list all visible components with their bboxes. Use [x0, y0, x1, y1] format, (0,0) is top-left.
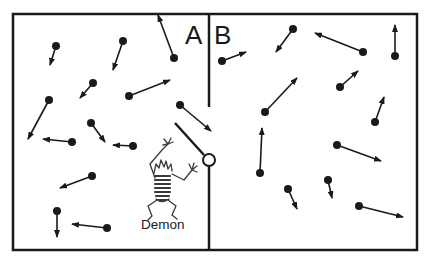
particle-a-8	[43, 138, 76, 146]
demon-label: Demon	[141, 218, 185, 232]
molecule-dot-icon	[324, 176, 332, 184]
particle-b-15	[315, 33, 367, 56]
velocity-arrow-icon	[276, 29, 293, 52]
molecule-dot-icon	[261, 108, 269, 116]
molecule-dot-icon	[391, 52, 399, 60]
chamber-a-label: A	[185, 22, 202, 48]
molecule-dot-icon	[89, 79, 97, 87]
molecule-dot-icon	[289, 25, 297, 33]
molecule-dot-icon	[53, 207, 61, 215]
particle-a-0	[50, 42, 60, 65]
particle-a-4	[125, 80, 170, 100]
particle-b-19	[371, 97, 384, 126]
velocity-arrow-icon	[28, 100, 49, 139]
particle-a-9	[113, 142, 137, 150]
particle-b-23	[324, 176, 332, 198]
particle-a-6	[176, 101, 211, 131]
particle-a-12	[72, 224, 111, 232]
molecule-dot-icon	[87, 119, 95, 127]
molecule-dot-icon	[333, 141, 341, 149]
particle-a-10	[60, 172, 96, 188]
velocity-arrow-icon	[113, 41, 123, 70]
particle-b-16	[391, 25, 399, 60]
particle-a-11	[53, 207, 61, 237]
chamber-b-label: B	[214, 22, 231, 48]
particle-a-3	[80, 79, 97, 98]
molecule-dot-icon	[68, 138, 76, 146]
particle-b-20	[256, 128, 264, 177]
particle-b-22	[284, 185, 297, 209]
particle-b-24	[355, 202, 403, 217]
molecule-dot-icon	[125, 92, 133, 100]
velocity-arrow-icon	[315, 33, 363, 52]
velocity-arrow-icon	[359, 206, 403, 217]
particle-b-14	[276, 25, 297, 52]
molecule-dot-icon	[45, 96, 53, 104]
demon-icon	[148, 138, 197, 220]
molecule-dot-icon	[170, 54, 178, 62]
molecule-dot-icon	[355, 202, 363, 210]
gate-pivot-icon	[203, 154, 215, 166]
molecule-dot-icon	[284, 185, 292, 193]
molecule-dot-icon	[371, 118, 379, 126]
molecule-dot-icon	[119, 37, 127, 45]
velocity-arrow-icon	[129, 80, 170, 96]
molecule-dot-icon	[359, 48, 367, 56]
molecule-dot-icon	[52, 42, 60, 50]
particle-b-17	[336, 71, 358, 91]
particle-a-1	[113, 37, 127, 70]
velocity-arrow-icon	[180, 105, 211, 131]
particle-b-13	[218, 52, 246, 65]
molecule-dot-icon	[256, 169, 264, 177]
molecule-dot-icon	[103, 224, 111, 232]
molecule-dot-icon	[176, 101, 184, 109]
particle-b-21	[333, 141, 381, 161]
velocity-arrow-icon	[158, 15, 174, 58]
molecule-dot-icon	[218, 57, 226, 65]
velocity-arrow-icon	[260, 128, 262, 173]
molecule-dot-icon	[336, 83, 344, 91]
velocity-arrow-icon	[72, 224, 107, 228]
molecule-dot-icon	[129, 142, 137, 150]
particle-a-2	[158, 15, 178, 62]
particle-b-18	[261, 78, 297, 116]
velocity-arrow-icon	[265, 78, 297, 112]
velocity-arrow-icon	[43, 139, 72, 142]
particle-a-5	[28, 96, 53, 139]
velocity-arrow-icon	[60, 176, 92, 188]
molecule-dot-icon	[88, 172, 96, 180]
velocity-arrow-icon	[337, 145, 381, 161]
particle-a-7	[87, 119, 105, 142]
gate-door	[175, 123, 204, 155]
